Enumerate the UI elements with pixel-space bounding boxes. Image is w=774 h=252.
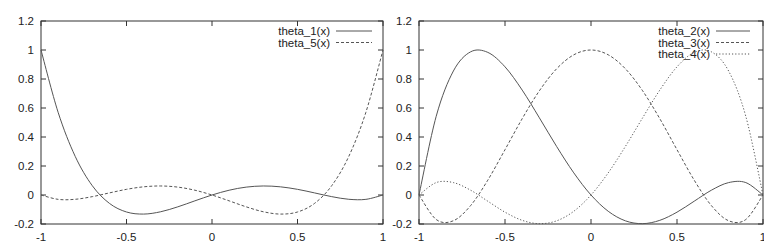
y-tick-label: 0.8: [396, 73, 412, 85]
left-chart: -0.200.20.40.60.811.2-1-0.500.51theta_1(…: [0, 0, 390, 252]
x-tick-label: -1: [36, 231, 46, 243]
y-tick-label: 0: [28, 189, 34, 201]
x-tick-label: 0: [209, 231, 215, 243]
y-tick-label: 0.8: [18, 73, 34, 85]
series-line-theta-5-x-: [41, 50, 383, 214]
legend-label: theta_4(x): [658, 48, 710, 60]
y-tick-label: 0.4: [396, 131, 413, 143]
y-tick-label: 0.6: [396, 102, 412, 114]
legend-label: theta_2(x): [658, 25, 710, 37]
y-tick-label: 0.6: [18, 102, 34, 114]
x-tick-label: 0.5: [669, 231, 685, 243]
y-tick-label: 0.2: [396, 160, 412, 172]
series-line-theta-3-x-: [419, 50, 763, 223]
x-tick-label: 0: [588, 231, 594, 243]
y-tick-label: 1.2: [18, 15, 34, 27]
y-tick-label: 1: [406, 44, 412, 56]
y-tick-label: -0.2: [392, 218, 412, 230]
legend-label: theta_5(x): [278, 37, 330, 49]
x-tick-label: -1: [414, 231, 424, 243]
y-tick-label: -0.2: [14, 218, 34, 230]
y-tick-label: 0.2: [18, 160, 34, 172]
legend-label: theta_1(x): [278, 25, 330, 37]
right-chart: -0.200.20.40.60.811.2-1-0.500.51theta_2(…: [380, 0, 764, 252]
series-line-theta-2-x-: [419, 50, 763, 224]
series-line-theta-1-x-: [41, 50, 383, 214]
series-line-theta-4-x-: [419, 50, 763, 224]
y-tick-label: 1.2: [396, 15, 412, 27]
x-tick-label: 0.5: [290, 231, 306, 243]
plot-frame: [41, 21, 383, 224]
x-tick-label: -0.5: [495, 231, 515, 243]
legend-label: theta_3(x): [658, 37, 710, 49]
x-tick-label: -0.5: [117, 231, 137, 243]
x-tick-label: 1: [760, 231, 764, 243]
y-tick-label: 0.4: [18, 131, 35, 143]
y-tick-label: 0: [406, 189, 412, 201]
y-tick-label: 1: [28, 44, 34, 56]
